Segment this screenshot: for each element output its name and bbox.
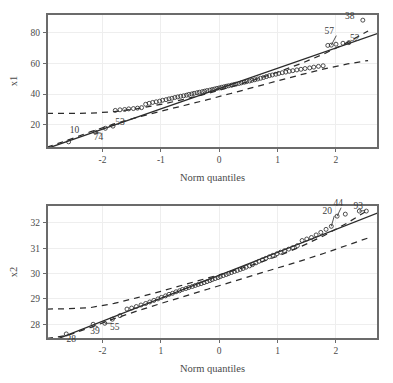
data-point bbox=[303, 67, 307, 71]
x-tick-label: 0 bbox=[217, 155, 222, 165]
x-tick-label: 0 bbox=[217, 346, 222, 356]
confidence-envelope-upper bbox=[47, 210, 368, 309]
y-tick-label: 20 bbox=[31, 120, 41, 130]
confidence-envelope-upper bbox=[47, 31, 368, 113]
y-tick-label: 60 bbox=[31, 59, 41, 69]
x-tick-label: 2 bbox=[334, 346, 339, 356]
data-point bbox=[308, 66, 312, 70]
data-point bbox=[324, 227, 328, 231]
data-point bbox=[343, 212, 347, 216]
y-tick-label: 30 bbox=[31, 269, 41, 279]
x-tick-label: 1 bbox=[275, 155, 280, 165]
y-tick-label: 80 bbox=[31, 28, 41, 38]
qq-plot-svg-x2: -210122829303132Norm quantilesx220449328… bbox=[0, 191, 393, 383]
x-tick-label: -1 bbox=[157, 155, 165, 165]
outlier-label: 52 bbox=[350, 33, 360, 43]
y-tick-label: 29 bbox=[31, 294, 41, 304]
outlier-label: 93 bbox=[354, 201, 364, 211]
data-point bbox=[118, 108, 122, 112]
y-axis-title: x1 bbox=[8, 76, 19, 87]
outlier-label: 10 bbox=[70, 125, 80, 135]
plot-content bbox=[47, 18, 378, 148]
x-tick-label: 1 bbox=[158, 346, 163, 356]
data-point bbox=[314, 233, 318, 237]
outlier-annotations: 204493283955 bbox=[67, 198, 366, 344]
y-tick-label: 32 bbox=[31, 218, 41, 228]
data-point bbox=[364, 209, 368, 213]
gridlines bbox=[47, 205, 378, 339]
y-tick-label: 28 bbox=[31, 320, 41, 330]
data-point bbox=[125, 307, 129, 311]
qq-plot-panel-x1: -2-101220406080Norm quantilesx1385752107… bbox=[0, 0, 393, 192]
y-tick-label: 40 bbox=[31, 89, 41, 99]
qq-plot-figure: -2-101220406080Norm quantilesx1385752107… bbox=[0, 0, 393, 383]
y-tick-label: 31 bbox=[31, 244, 41, 254]
plot-content bbox=[47, 209, 378, 343]
x-tick-label: 1 bbox=[275, 346, 280, 356]
data-points bbox=[64, 209, 368, 336]
qq-plot-panel-x2: -210122829303132Norm quantilesx220449328… bbox=[0, 191, 393, 383]
data-point bbox=[316, 64, 320, 68]
data-point bbox=[319, 230, 323, 234]
x-tick-label: -2 bbox=[98, 155, 106, 165]
outlier-label: 55 bbox=[110, 322, 120, 332]
outlier-label: 74 bbox=[94, 132, 104, 142]
outlier-label: 20 bbox=[323, 206, 333, 216]
outlier-label: 57 bbox=[325, 26, 335, 36]
data-point bbox=[361, 18, 365, 22]
data-point bbox=[299, 67, 303, 71]
x-tick-label: 2 bbox=[334, 155, 339, 165]
qq-plot-svg-x1: -2-101220406080Norm quantilesx1385752107… bbox=[0, 0, 393, 192]
y-axis-title: x2 bbox=[8, 267, 19, 278]
x-tick-label: -2 bbox=[98, 346, 106, 356]
outlier-label: 38 bbox=[345, 11, 355, 21]
data-point bbox=[321, 64, 325, 68]
outlier-annotations: 385752107453 bbox=[70, 11, 360, 142]
data-point bbox=[300, 239, 304, 243]
x-axis-title: Norm quantiles bbox=[180, 172, 245, 183]
data-point bbox=[312, 65, 316, 69]
outlier-label: 44 bbox=[333, 198, 343, 208]
data-point bbox=[295, 68, 299, 72]
outlier-label: 39 bbox=[90, 326, 100, 336]
outlier-label: 28 bbox=[67, 334, 77, 344]
outlier-label: 53 bbox=[115, 117, 125, 127]
plot-frame bbox=[47, 205, 378, 339]
x-axis-title: Norm quantiles bbox=[180, 363, 245, 374]
